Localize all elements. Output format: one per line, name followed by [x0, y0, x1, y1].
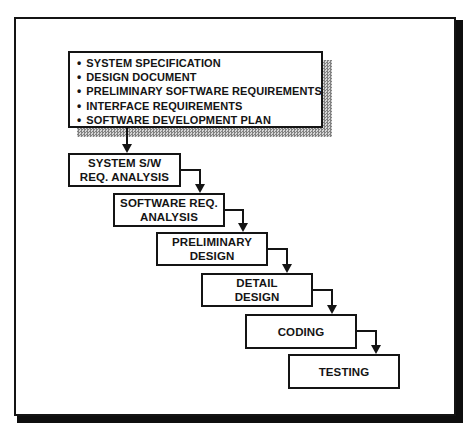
bullet-dot-icon: • — [77, 84, 81, 98]
stage-label-line: PRELIMINARY — [172, 235, 252, 249]
diagram-frame: • SYSTEM SPECIFICATION • DESIGN DOCUMENT… — [14, 17, 456, 416]
arrowhead-down-icon — [122, 144, 132, 153]
bullet-dot-icon: • — [77, 113, 81, 127]
stage-label-line: SYSTEM S/W — [88, 156, 161, 170]
arrowhead-down-icon — [238, 223, 248, 232]
stage-label-line: SOFTWARE REQ. — [120, 196, 218, 210]
bullet-item-label: PRELIMINARY SOFTWARE REQUIREMENTS — [86, 84, 322, 98]
flow-connector-4-v — [331, 289, 333, 305]
flow-connector-1-h — [181, 169, 201, 171]
stage-box-coding: CODING — [245, 314, 357, 349]
stage-label-line: DESIGN — [235, 290, 280, 304]
arrowhead-down-icon — [327, 305, 337, 314]
stage-box-software-req-analysis: SOFTWARE REQ. ANALYSIS — [113, 193, 225, 227]
bullet-item-system-specification: • SYSTEM SPECIFICATION — [77, 56, 317, 70]
flow-connector-2-v — [242, 209, 244, 224]
bullet-dot-icon: • — [77, 99, 81, 113]
stage-label-line: TESTING — [319, 365, 370, 379]
flow-connector-5-h — [357, 330, 377, 332]
bullet-item-label: INTERFACE REQUIREMENTS — [86, 99, 242, 113]
bullet-dot-icon: • — [77, 70, 81, 84]
arrowhead-down-icon — [371, 345, 381, 354]
stage-label-line: REQ. ANALYSIS — [80, 170, 169, 184]
bullet-item-label: SYSTEM SPECIFICATION — [86, 56, 220, 70]
stage-box-testing: TESTING — [288, 354, 400, 389]
flow-connector-5-v — [375, 330, 377, 346]
arrowhead-down-icon — [195, 184, 205, 193]
bullet-dot-icon: • — [77, 56, 81, 70]
flow-connector-3-h — [268, 248, 288, 250]
bullet-item-software-development-plan: • SOFTWARE DEVELOPMENT PLAN — [77, 113, 317, 127]
bullet-item-preliminary-software-requirements: • PRELIMINARY SOFTWARE REQUIREMENTS — [77, 84, 317, 98]
stage-box-system-sw-req-analysis: SYSTEM S/W REQ. ANALYSIS — [68, 153, 181, 187]
bullet-item-interface-requirements: • INTERFACE REQUIREMENTS — [77, 99, 317, 113]
documents-box: • SYSTEM SPECIFICATION • DESIGN DOCUMENT… — [68, 51, 323, 128]
bullet-item-label: SOFTWARE DEVELOPMENT PLAN — [86, 113, 271, 127]
stage-label-line: DETAIL — [236, 276, 277, 290]
flow-connector-4-h — [313, 289, 333, 291]
stage-label-line: DESIGN — [190, 249, 235, 263]
bullet-item-design-document: • DESIGN DOCUMENT — [77, 70, 317, 84]
flow-connector-1-v — [199, 169, 201, 185]
waterfall-diagram: • SYSTEM SPECIFICATION • DESIGN DOCUMENT… — [0, 0, 471, 437]
stage-label-line: CODING — [278, 325, 325, 339]
bullet-item-label: DESIGN DOCUMENT — [86, 70, 196, 84]
stage-box-detail-design: DETAIL DESIGN — [201, 273, 313, 307]
stage-box-preliminary-design: PRELIMINARY DESIGN — [156, 232, 268, 266]
arrowhead-down-icon — [282, 264, 292, 273]
stage-label-line: ANALYSIS — [140, 210, 198, 224]
flow-connector-3-v — [286, 248, 288, 264]
